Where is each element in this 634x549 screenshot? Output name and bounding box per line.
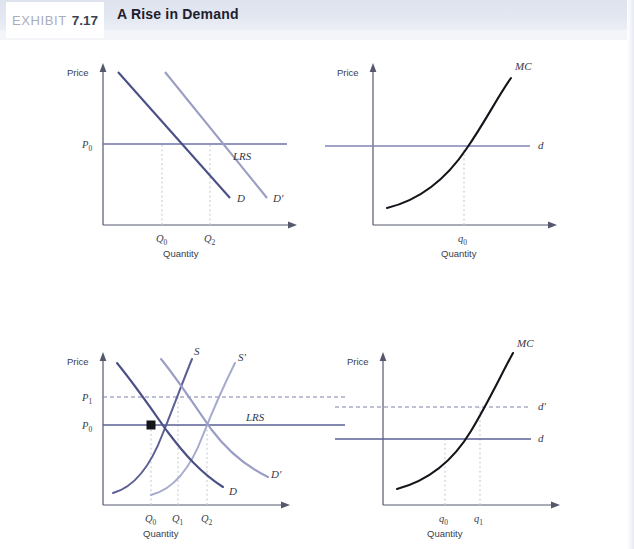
curve-label-mc: MC	[514, 60, 532, 72]
firm-marginal-cost-shift-panel: Price Quantity q0 q1 MC d d'	[335, 315, 625, 549]
curve-label-d: D	[228, 485, 237, 497]
quantity-tick-q0: Q0	[145, 513, 157, 527]
x-axis-label: Quantity	[163, 248, 199, 259]
curve-label-mc: MC	[516, 337, 534, 349]
marginal-cost-curve	[397, 353, 513, 489]
exhibit-tag-word: EXHIBIT	[12, 13, 67, 28]
demand-curve-d	[118, 72, 230, 198]
curve-label-d-prime: D'	[272, 192, 284, 204]
firm-marginal-cost-panel: Price Quantity q0 MC d	[325, 50, 615, 265]
x-axis-label: Quantity	[441, 248, 477, 259]
demand-curve-d-prime	[165, 72, 267, 198]
curve-label-d: d	[538, 432, 544, 444]
exhibit-figure-area: Price Quantity P0 Q0 Q2 D D' LRS Price Q…	[0, 40, 634, 549]
page-edge-shadow	[627, 0, 634, 549]
market-demand-shift-panel: Price Quantity P0 Q0 Q2 D D' LRS	[55, 50, 330, 265]
price-tick-p1: P1	[81, 392, 92, 406]
curve-label-d: D	[236, 192, 245, 204]
quantity-tick-q0: q0	[458, 233, 467, 247]
y-axis-label: Price	[337, 67, 359, 78]
curve-label-d: d	[538, 139, 544, 151]
quantity-tick-q0: Q0	[156, 233, 168, 247]
axis-group	[100, 63, 297, 228]
y-axis-label: Price	[67, 67, 89, 78]
exhibit-tag-number: 7.17	[72, 13, 98, 28]
curve-label-lrs: LRS	[245, 411, 265, 423]
price-tick-p0: P0	[81, 420, 92, 434]
price-tick-p0: P0	[81, 139, 92, 153]
x-axis-label: Quantity	[143, 528, 179, 539]
quantity-tick-q2: Q2	[204, 233, 216, 247]
quantity-tick-q1: q1	[474, 513, 483, 527]
curve-label-s-prime: S'	[238, 351, 247, 363]
x-axis-label: Quantity	[427, 528, 463, 539]
exhibit-title: A Rise in Demand	[117, 6, 239, 22]
market-supply-demand-panel: Price Quantity P1 P0 Q0 Q1 Q2 S S' D D' …	[55, 315, 345, 549]
y-axis-label: Price	[67, 356, 89, 367]
equilibrium-point-marker	[147, 421, 156, 430]
quantity-tick-q1: Q1	[172, 513, 184, 527]
guide-lines	[445, 407, 480, 505]
guide-lines	[162, 144, 210, 225]
quantity-tick-q2: Q2	[201, 513, 213, 527]
exhibit-tag-box: EXHIBIT 7.17	[6, 2, 104, 38]
y-axis-label: Price	[347, 356, 369, 367]
curve-label-s: S	[194, 345, 200, 357]
marginal-cost-curve	[387, 78, 511, 208]
curve-label-lrs: LRS	[232, 150, 252, 162]
guide-lines	[151, 397, 207, 505]
curve-label-d-prime: d'	[538, 400, 547, 412]
curve-label-d-prime: D'	[270, 468, 282, 480]
quantity-tick-q0: q0	[439, 513, 448, 527]
